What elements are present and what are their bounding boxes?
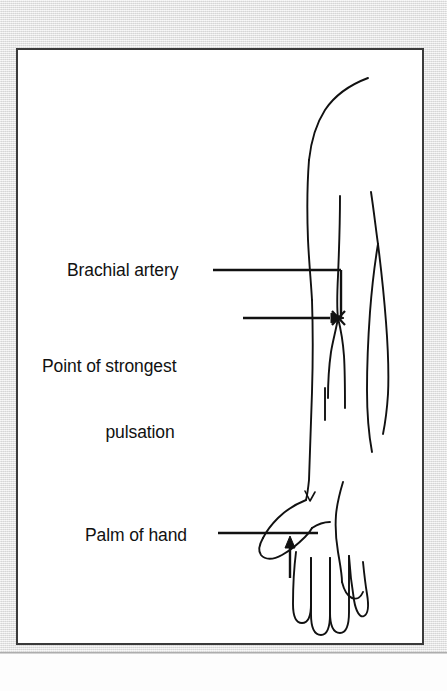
label-point-pulsation-line1: Point of strongest: [42, 355, 238, 377]
label-palm-of-hand: Palm of hand: [85, 524, 187, 546]
label-point-of-strongest-pulsation: Point of strongest pulsation: [42, 311, 238, 465]
label-point-pulsation-line2: pulsation: [42, 421, 238, 443]
label-brachial-artery: Brachial artery: [67, 259, 178, 281]
below-rule-whitespace: [0, 654, 447, 691]
